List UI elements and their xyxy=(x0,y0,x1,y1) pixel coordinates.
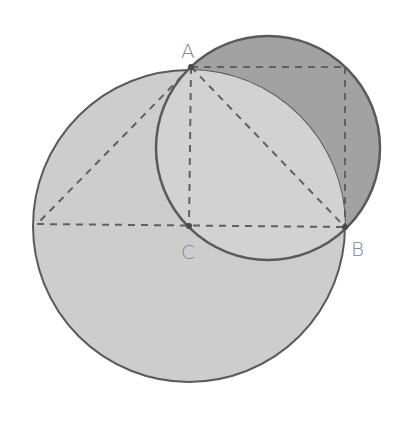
geometry-diagram: A C B xyxy=(0,0,412,431)
label-B: B xyxy=(351,237,364,261)
label-A: A xyxy=(181,39,195,63)
point-B xyxy=(342,224,348,230)
point-A xyxy=(188,64,194,70)
label-C: C xyxy=(181,240,195,264)
point-C xyxy=(186,223,192,229)
